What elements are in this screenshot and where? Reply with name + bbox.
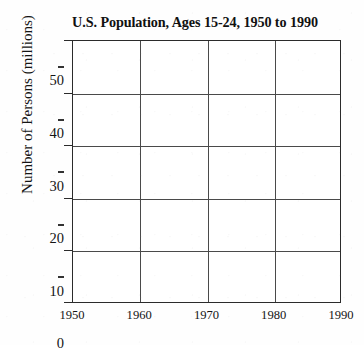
x-tick-label-1980: 1980 xyxy=(244,309,304,322)
x-tick-label-1950: 1950 xyxy=(42,309,102,322)
y-major-tick-50 xyxy=(64,40,72,41)
y-minor-tick-35 xyxy=(58,119,64,121)
y-major-tick-40 xyxy=(64,93,72,94)
y-axis-tick-labels: 50 40 30 20 10 0 xyxy=(14,40,64,303)
chart-title: U.S. Population, Ages 15-24, 1950 to 199… xyxy=(0,14,364,31)
y-minor-tick-5 xyxy=(58,276,64,278)
y-axis-minor-ticks xyxy=(58,40,64,303)
y-minor-tick-25 xyxy=(58,171,64,173)
plot-area xyxy=(72,40,341,303)
y-tick-label-0: 0 xyxy=(22,336,64,351)
y-minor-tick-45 xyxy=(58,66,64,68)
x-tick-label-1960: 1960 xyxy=(109,309,169,322)
gridline-horizontal-20 xyxy=(73,199,340,200)
y-major-tick-30 xyxy=(64,145,72,146)
gridline-vertical-1980 xyxy=(275,41,276,302)
y-axis-major-ticks xyxy=(64,40,72,303)
x-tick-label-1970: 1970 xyxy=(177,309,237,322)
y-major-tick-20 xyxy=(64,198,72,199)
gridline-vertical-1960 xyxy=(140,41,141,302)
y-minor-tick-15 xyxy=(58,224,64,226)
x-axis-tick-labels: 1950 1960 1970 1980 1990 xyxy=(72,309,341,329)
x-tick-label-1990: 1990 xyxy=(311,309,364,322)
gridline-horizontal-30 xyxy=(73,146,340,147)
gridline-vertical-1970 xyxy=(208,41,209,302)
gridline-horizontal-10 xyxy=(73,251,340,252)
y-major-tick-0 xyxy=(64,302,72,303)
gridline-horizontal-40 xyxy=(73,94,340,95)
y-major-tick-10 xyxy=(64,250,72,251)
